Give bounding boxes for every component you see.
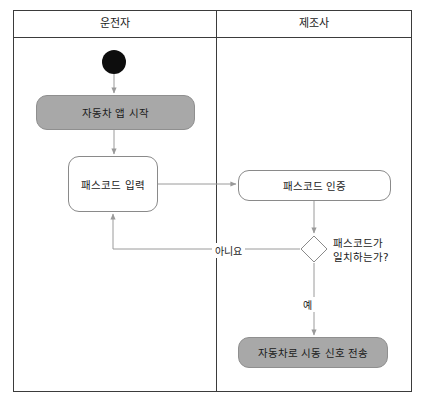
swimlane-header-rule — [13, 37, 412, 38]
swimlane-divider — [216, 10, 217, 392]
decision-node-label-line1: 패스코드가 — [333, 236, 389, 250]
action-node-send-start-signal-label: 자동차로 시동 신호 전송 — [258, 345, 368, 360]
action-node-passcode-input[interactable]: 패스코드 입력 — [68, 156, 158, 212]
decision-node-label-line2: 일치하는가? — [333, 250, 389, 264]
action-node-passcode-input-label: 패스코드 입력 — [81, 177, 144, 192]
lane-title-manufacturer: 제조사 — [217, 14, 411, 34]
action-node-app-start-label: 자동차 앱 시작 — [82, 105, 149, 120]
edge-label-no: 아니요 — [212, 243, 245, 258]
action-node-send-start-signal[interactable]: 자동차로 시동 신호 전송 — [238, 337, 388, 368]
initial-node-icon — [102, 50, 126, 74]
decision-node-label: 패스코드가 일치하는가? — [333, 236, 389, 264]
lane-title-driver: 운전자 — [14, 14, 216, 34]
decision-node-diamond-icon[interactable] — [300, 235, 328, 263]
action-node-app-start[interactable]: 자동차 앱 시작 — [36, 95, 195, 130]
activity-diagram-canvas: 운전자 제조사 자동차 앱 시작 패스코드 입력 — [0, 0, 425, 406]
action-node-passcode-auth-label: 패스코드 인증 — [283, 178, 346, 193]
action-node-passcode-auth[interactable]: 패스코드 인증 — [238, 170, 391, 201]
edge-label-yes: 예 — [300, 297, 315, 312]
